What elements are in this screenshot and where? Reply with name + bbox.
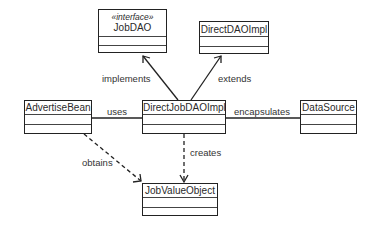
extends-label: extends: [218, 73, 251, 84]
operations-compartment: [143, 208, 217, 215]
class-datasource[interactable]: DataSource: [300, 100, 357, 134]
attributes-compartment: [99, 37, 166, 46]
stereotype-label: «interface»: [99, 12, 166, 22]
attributes-compartment: [143, 115, 225, 125]
implements-label: implements: [102, 73, 151, 84]
class-advertisebean[interactable]: AdvertiseBean: [24, 100, 92, 134]
extends-line: [191, 56, 221, 100]
creates-label: creates: [190, 147, 221, 158]
class-name: DirectJobDAOImpl: [143, 101, 225, 115]
class-name: AdvertiseBean: [25, 101, 91, 115]
attributes-compartment: [200, 37, 268, 47]
class-name: JobValueObject: [143, 184, 217, 198]
attributes-compartment: [25, 115, 91, 125]
operations-compartment: [25, 125, 91, 133]
class-name: «interface» JobDAO: [99, 10, 166, 37]
attributes-compartment: [301, 115, 356, 125]
operations-compartment: [99, 46, 166, 52]
operations-compartment: [143, 125, 225, 133]
class-directdaoimpl[interactable]: DirectDAOImpl: [199, 21, 269, 54]
uses-label: uses: [107, 106, 127, 117]
class-name: DataSource: [301, 101, 356, 115]
operations-compartment: [200, 47, 268, 53]
class-jobdao[interactable]: «interface» JobDAO: [98, 9, 167, 53]
class-jobvalueobject[interactable]: JobValueObject: [142, 183, 218, 216]
class-name: DirectDAOImpl: [200, 22, 268, 37]
attributes-compartment: [143, 198, 217, 208]
operations-compartment: [301, 125, 356, 133]
obtains-label: obtains: [82, 157, 113, 168]
encapsulates-label: encapsulates: [234, 106, 290, 117]
class-directjobdaoimpl[interactable]: DirectJobDAOImpl: [142, 100, 226, 134]
